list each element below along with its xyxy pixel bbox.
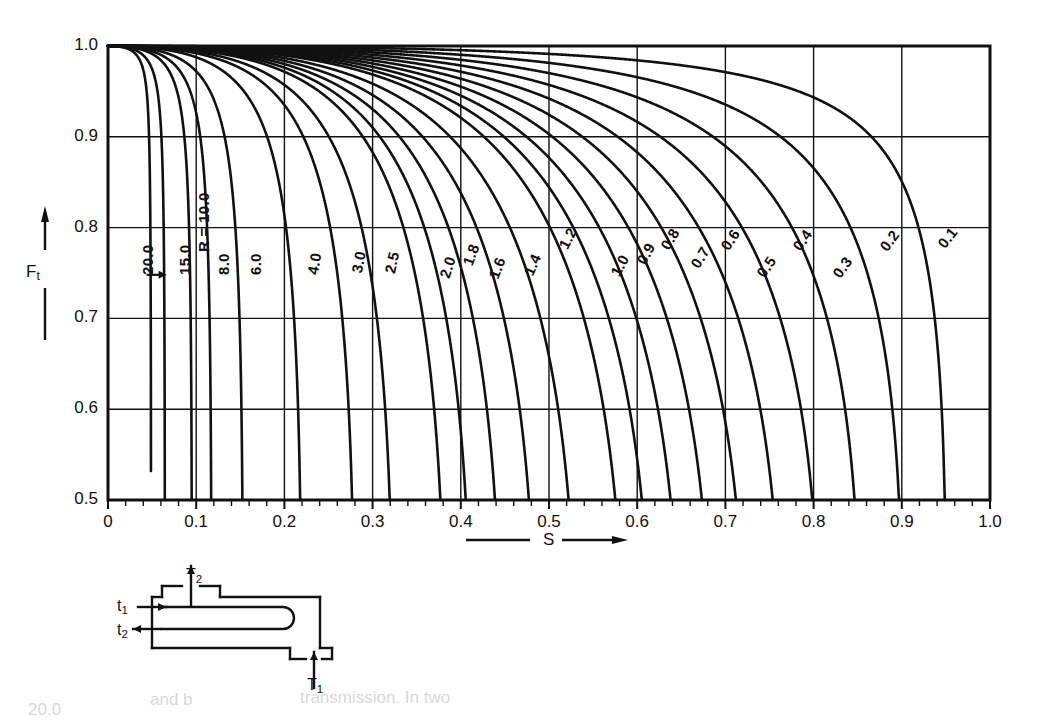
curve-label-R-10.0: R = 10.0 <box>195 193 212 253</box>
y-tick-label: 1.0 <box>46 35 98 55</box>
shell-outlet-symbol: T <box>186 566 196 583</box>
y-tick-label: 0.6 <box>46 398 98 418</box>
x-tick-label: 0.8 <box>784 512 844 532</box>
diagram-label-shell-inlet: T1 <box>307 676 323 695</box>
scan-artifact-text: and b <box>150 690 193 710</box>
x-tick-label: 0.9 <box>872 512 932 532</box>
x-tick-label: 0 <box>78 512 138 532</box>
tube-outlet-arrow-head <box>133 625 141 633</box>
x-tick-label: 0.4 <box>431 512 491 532</box>
chart-canvas <box>0 0 1044 720</box>
y-tick-label: 0.7 <box>46 307 98 327</box>
shell-outlet-subscript: 2 <box>196 573 202 585</box>
curve-label-R-20.0: 20.0 <box>139 244 156 274</box>
curve-R-4.0 <box>108 46 300 500</box>
x-axis-title: S <box>543 530 554 550</box>
curve-label-R-8.0: 8.0 <box>215 253 232 275</box>
shell-inlet-subscript: 1 <box>317 683 323 695</box>
scan-artifact-text: 20.0 <box>28 700 61 720</box>
tube-outlet-subscript: 2 <box>121 628 127 640</box>
shell-inlet-symbol: T <box>307 676 317 693</box>
x-tick-label: 1.0 <box>960 512 1020 532</box>
x-tick-label: 0.2 <box>254 512 314 532</box>
figure-root: 0.50.60.70.80.91.0 00.10.20.30.40.50.60.… <box>0 0 1044 720</box>
heat-exchanger-diagram <box>133 566 332 688</box>
y-axis-title: Ft <box>26 262 40 283</box>
x-tick-label: 0.7 <box>695 512 755 532</box>
y-tick-label: 0.5 <box>46 489 98 509</box>
diagram-label-tube-inlet: t1 <box>117 597 128 616</box>
tube-inlet-subscript: 1 <box>121 604 127 616</box>
x-axis-arrow-head <box>612 536 628 544</box>
x-tick-label: 0.3 <box>343 512 403 532</box>
diagram-label-shell-outlet: T2 <box>186 566 202 585</box>
curve-label-R-4.0: 4.0 <box>304 252 324 276</box>
curve-R-15.0 <box>108 46 165 500</box>
x-tick-label: 0.6 <box>607 512 667 532</box>
tube-inlet-arrow-head <box>158 603 166 611</box>
y-axis-title-subscript: t <box>36 269 39 283</box>
curve-label-R-6.0: 6.0 <box>247 253 264 275</box>
x-tick-label: 0.5 <box>519 512 579 532</box>
curve-label-R-15.0: 15.0 <box>176 244 193 274</box>
y-tick-label: 0.8 <box>46 217 98 237</box>
shell-inlet-arrow-head <box>310 652 318 660</box>
x-axis-title-text: S <box>543 530 554 549</box>
y-axis-title-text: F <box>26 262 36 281</box>
y-tick-label: 0.9 <box>46 126 98 146</box>
tube-u-bend <box>160 607 294 629</box>
diagram-label-tube-outlet: t2 <box>117 621 128 640</box>
curve-R-0.6 <box>108 46 736 500</box>
x-tick-label: 0.1 <box>166 512 226 532</box>
